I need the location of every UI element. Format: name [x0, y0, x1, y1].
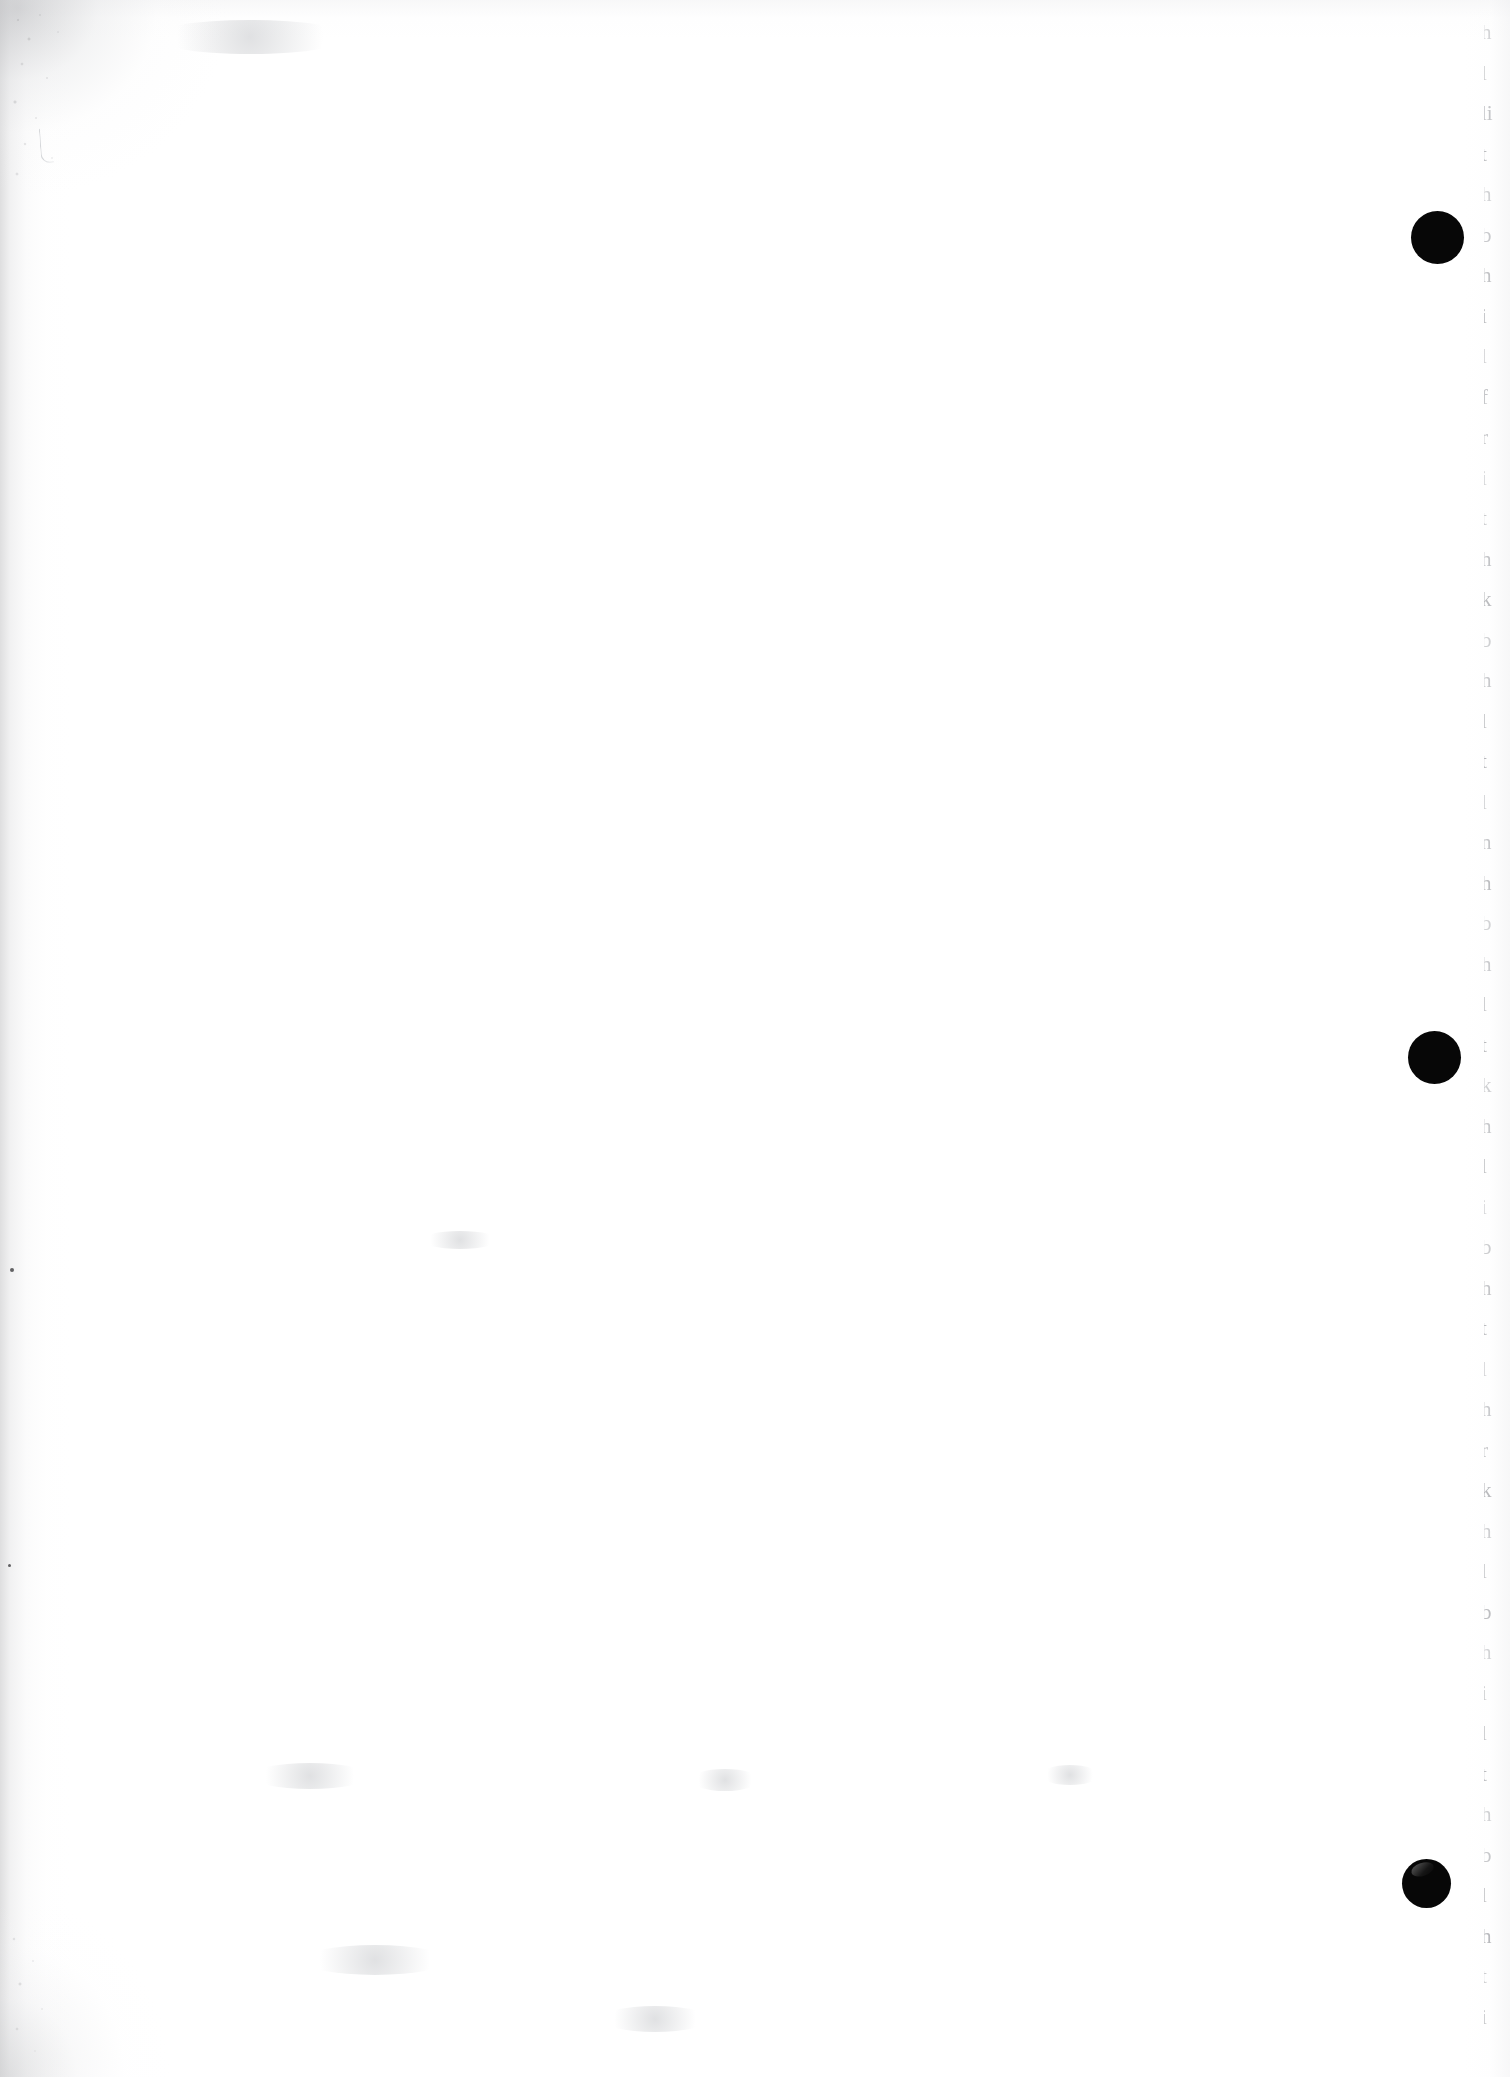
dust-speck [8, 1564, 11, 1567]
edge-text-fragment: n [1484, 832, 1492, 853]
edge-text-line: h [1484, 1642, 1510, 1663]
edge-text-line: n [1484, 832, 1510, 853]
edge-text-line: i [1484, 306, 1510, 327]
edge-text-line: l [1484, 346, 1510, 367]
edge-text-line: h [1484, 549, 1510, 570]
edge-text-fragment: h [1484, 954, 1492, 975]
edge-text-line: h [1484, 1521, 1510, 1542]
edge-text-line: t [1484, 1318, 1510, 1339]
edge-text-fragment: l [1484, 792, 1487, 813]
edge-text-fragment: i [1484, 1197, 1487, 1218]
edge-text-fragment: t [1484, 1318, 1487, 1339]
edge-text-fragment: h [1484, 1642, 1492, 1663]
edge-text-fragment: b [1484, 913, 1492, 934]
edge-text-fragment: t [1484, 1035, 1487, 1056]
edge-text-fragment: h [1484, 1926, 1492, 1947]
edge-text-fragment: t [1484, 751, 1487, 772]
edge-text-fragment: h [1484, 184, 1492, 205]
edge-text-line: l [1484, 711, 1510, 732]
edge-text-line: h [1484, 1804, 1510, 1825]
edge-text-line: k [1484, 1075, 1510, 1096]
edge-text-fragment: h [1484, 265, 1492, 286]
edge-text-fragment: h [1484, 1278, 1492, 1299]
edge-text-fragment: h [1484, 670, 1492, 691]
edge-text-line: i [1484, 1197, 1510, 1218]
edge-text-line: l [1484, 63, 1510, 84]
edge-text-line: l [1484, 1885, 1510, 1906]
edge-text-fragment: l [1484, 994, 1487, 1015]
black-dot-top [1411, 211, 1464, 264]
edge-text-line: t [1484, 508, 1510, 529]
edge-text-fragment: k [1484, 1075, 1492, 1096]
edge-text-line: h [1484, 1399, 1510, 1420]
faint-pencil-mark [39, 128, 54, 164]
edge-text-line: b [1484, 630, 1510, 651]
black-dot-bottom [1402, 1859, 1451, 1908]
dust-speck [10, 1268, 14, 1272]
facing-page-edge-text: hllithbhilfrithkbhltlnhbhltkhlibhtlhrkhl… [1484, 0, 1510, 2077]
paper-background [0, 0, 1510, 2077]
black-dot-middle [1408, 1031, 1461, 1084]
edge-text-fragment: h [1484, 1116, 1492, 1137]
edge-text-fragment: b [1484, 1602, 1492, 1623]
edge-text-fragment: k [1484, 1480, 1492, 1501]
edge-text-fragment: l [1484, 1359, 1487, 1380]
edge-text-line: h [1484, 1116, 1510, 1137]
edge-text-line: h [1484, 184, 1510, 205]
edge-text-fragment: i [1484, 468, 1487, 489]
edge-text-line: b [1484, 913, 1510, 934]
edge-text-line: t [1484, 1035, 1510, 1056]
scan-noise-bottom-left [4, 1921, 114, 2071]
faint-smudge [690, 1769, 760, 1791]
edge-text-line: h [1484, 670, 1510, 691]
edge-text-fragment: b [1484, 225, 1492, 246]
edge-text-fragment: t [1484, 508, 1487, 529]
edge-text-line: i [1484, 2007, 1510, 2028]
edge-text-line: h [1484, 1278, 1510, 1299]
edge-text-line: h [1484, 1926, 1510, 1947]
edge-text-line: i [1484, 1683, 1510, 1704]
edge-text-line: l [1484, 1723, 1510, 1744]
edge-text-fragment: b [1484, 630, 1492, 651]
faint-smudge [420, 1231, 500, 1249]
edge-text-line: r [1484, 1440, 1510, 1461]
edge-text-fragment: l [1484, 1156, 1487, 1177]
scanned-page: hllithbhilfrithkbhltlnhbhltkhlibhtlhrkhl… [0, 0, 1510, 2077]
scan-noise-top-left [6, 6, 126, 186]
edge-text-line: i [1484, 468, 1510, 489]
edge-text-fragment: i [1484, 1683, 1487, 1704]
edge-text-fragment: f [1484, 387, 1488, 408]
edge-text-fragment: b [1484, 1237, 1492, 1258]
edge-text-line: t [1484, 751, 1510, 772]
edge-text-line: l [1484, 792, 1510, 813]
edge-text-line: t [1484, 1966, 1510, 1987]
edge-text-fragment: t [1484, 1966, 1487, 1987]
edge-text-line: k [1484, 1480, 1510, 1501]
edge-text-fragment: r [1484, 427, 1488, 448]
edge-text-line: f [1484, 387, 1510, 408]
edge-text-fragment: h [1484, 873, 1492, 894]
edge-text-line: b [1484, 1602, 1510, 1623]
edge-text-fragment: k [1484, 589, 1492, 610]
edge-text-line: li [1484, 103, 1510, 124]
edge-text-fragment: t [1484, 1764, 1487, 1785]
faint-smudge [300, 1945, 450, 1975]
edge-text-fragment: l [1484, 1723, 1487, 1744]
edge-text-fragment: i [1484, 2007, 1487, 2028]
edge-text-fragment: l [1484, 1885, 1487, 1906]
edge-text-line: r [1484, 427, 1510, 448]
edge-text-line: l [1484, 994, 1510, 1015]
edge-text-line: h [1484, 22, 1510, 43]
edge-text-fragment: l [1484, 1561, 1487, 1582]
edge-text-line: b [1484, 1237, 1510, 1258]
faint-smudge [250, 1763, 370, 1789]
edge-text-line: t [1484, 144, 1510, 165]
edge-text-fragment: li [1484, 103, 1493, 124]
edge-text-line: k [1484, 589, 1510, 610]
faint-smudge [150, 20, 350, 54]
edge-text-line: h [1484, 873, 1510, 894]
edge-text-line: t [1484, 1764, 1510, 1785]
faint-smudge [600, 2006, 710, 2032]
edge-text-fragment: l [1484, 346, 1487, 367]
edge-text-line: h [1484, 954, 1510, 975]
